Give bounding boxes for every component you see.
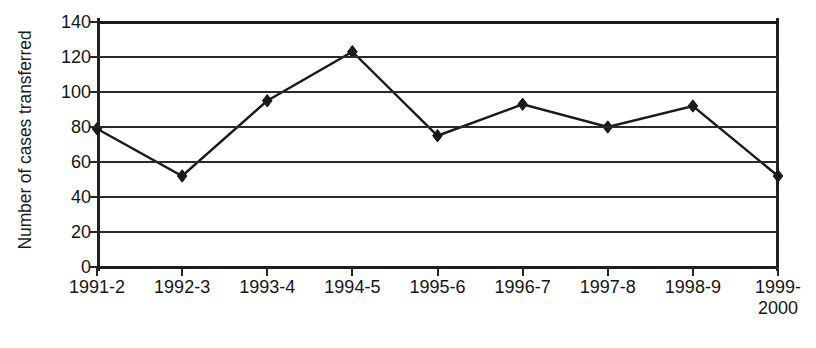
y-axis-tick-mark <box>89 21 98 23</box>
x-axis-tick-mark <box>351 267 353 276</box>
data-point-marker <box>688 100 698 112</box>
y-axis-tick-mark <box>89 126 98 128</box>
y-axis-tick-mark <box>89 231 98 233</box>
y-axis-tick-mark <box>89 91 98 93</box>
series-polyline <box>97 52 778 176</box>
y-axis-tick-mark <box>89 161 98 163</box>
x-axis-tick-mark <box>692 267 694 276</box>
x-axis-tick-mark <box>266 267 268 276</box>
x-axis-tick-mark <box>777 267 779 276</box>
y-axis-tick-mark <box>89 56 98 58</box>
x-axis-tick-label: 1999- 2000 <box>718 277 816 319</box>
x-axis-tick-mark <box>437 267 439 276</box>
gridline <box>97 196 778 198</box>
gridline <box>97 21 778 24</box>
x-axis-tick-mark <box>96 267 98 276</box>
gridline <box>97 161 778 163</box>
gridline <box>97 231 778 233</box>
line-chart-figure: Number of cases transferred 020406080100… <box>0 0 816 348</box>
y-axis-tick-mark <box>89 196 98 198</box>
gridline <box>97 56 778 58</box>
x-axis-tick-mark <box>607 267 609 276</box>
data-point-marker <box>518 98 528 110</box>
x-axis-tick-mark <box>181 267 183 276</box>
data-point-marker <box>773 170 783 182</box>
x-axis-tick-labels: 1991-21992-31993-41994-51995-61996-71997… <box>97 277 778 343</box>
x-axis-tick-mark <box>522 267 524 276</box>
gridline <box>97 126 778 128</box>
gridline <box>97 91 778 93</box>
plot-area <box>97 22 778 267</box>
